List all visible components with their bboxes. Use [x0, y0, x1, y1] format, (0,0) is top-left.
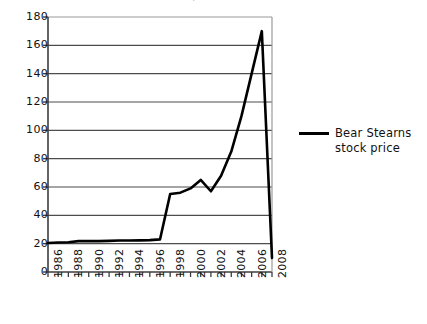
x-axis-tick-label: 1992	[114, 266, 126, 278]
legend-label: Bear Stearns stock price	[335, 126, 427, 156]
x-axis-tick-label: 2002	[216, 266, 228, 278]
x-axis-tick-label: 1990	[94, 266, 106, 278]
y-axis-tick-label: 60	[8, 181, 48, 192]
y-axis-tick-label: 140	[8, 68, 48, 79]
x-axis-tick-label: 2004	[236, 266, 248, 278]
x-axis-tick-label: 1996	[155, 266, 167, 278]
stock-price-line-chart: Bear Stearns stock price 180160140120100…	[0, 0, 427, 324]
x-axis-tick-label: 1986	[53, 266, 65, 278]
x-axis-tick-label: 2008	[277, 266, 289, 278]
gridlines-group	[43, 17, 272, 272]
y-axis-tick-label: 40	[8, 209, 48, 220]
y-axis-tick-label: 160	[8, 39, 48, 50]
y-axis-tick-label: 0	[8, 266, 48, 277]
x-axis-tick-label: 1998	[175, 266, 187, 278]
legend-line-swatch	[299, 132, 329, 135]
data-series-line	[48, 31, 272, 258]
x-axis-tick-label: 2000	[196, 266, 208, 278]
y-axis-tick-label: 120	[8, 96, 48, 107]
x-axis-tick-label: 1994	[134, 266, 146, 278]
x-axis-tick-label: 2006	[257, 266, 269, 278]
y-axis-tick-label: 100	[8, 124, 48, 135]
y-axis-tick-label: 20	[8, 238, 48, 249]
y-axis-tick-label: 180	[8, 11, 48, 22]
y-axis-tick-label: 80	[8, 153, 48, 164]
legend: Bear Stearns stock price	[299, 126, 427, 156]
x-axis-tick-label: 1988	[73, 266, 85, 278]
